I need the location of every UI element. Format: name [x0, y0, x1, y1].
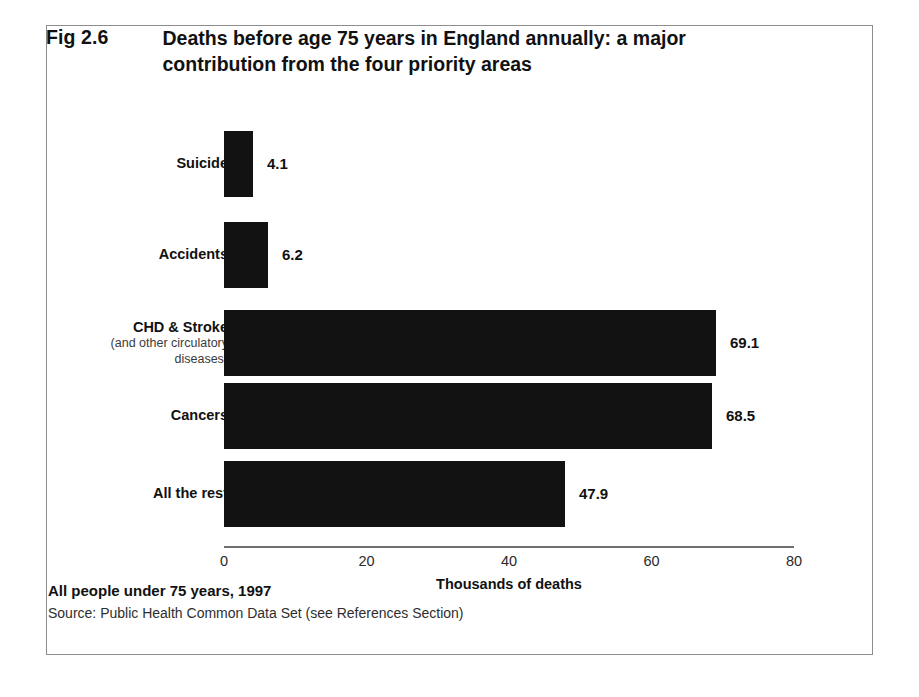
- bar-category-name: CHD & Stroke: [133, 319, 228, 335]
- bar-category-label: Cancers: [28, 407, 228, 424]
- footer-source: Source: Public Health Common Data Set (s…: [48, 605, 768, 621]
- bar-value-label: 47.9: [579, 485, 608, 502]
- bar-category-name: Suicide: [176, 155, 228, 171]
- x-axis-tick-label: 60: [643, 553, 659, 569]
- x-axis-tick-label: 0: [220, 553, 228, 569]
- figure-footer: All people under 75 years, 1997 Source: …: [48, 582, 768, 621]
- x-axis-tick-label: 40: [501, 553, 517, 569]
- bar-category-label: CHD & Stroke(and other circulatorydiseas…: [28, 319, 228, 367]
- bar: [224, 310, 716, 376]
- bar: [224, 222, 268, 288]
- bar-category-label: Accidents: [28, 246, 228, 263]
- bar-category-sublabel: (and other circulatory: [28, 336, 228, 351]
- x-axis-tick-label: 20: [358, 553, 374, 569]
- bar-category-label: All the rest: [28, 485, 228, 502]
- footer-caption: All people under 75 years, 1997: [48, 582, 768, 599]
- bar-category-name: Accidents: [159, 246, 228, 262]
- x-axis-tick-label: 80: [786, 553, 802, 569]
- bar-value-label: 4.1: [267, 155, 288, 172]
- bar-category-name: Cancers: [171, 407, 228, 423]
- bar: [224, 383, 712, 449]
- x-axis-line: [224, 546, 794, 548]
- bar-category-label: Suicide: [28, 155, 228, 172]
- bar-value-label: 6.2: [282, 246, 303, 263]
- bar-value-label: 69.1: [730, 334, 759, 351]
- bar-category-name: All the rest: [153, 485, 228, 501]
- bar: [224, 131, 253, 197]
- bar: [224, 461, 565, 527]
- bar-category-sublabel: diseases): [28, 352, 228, 367]
- bar-value-label: 68.5: [726, 407, 755, 424]
- bar-chart-plot-area: Suicide4.1Accidents6.2CHD & Stroke(and o…: [46, 25, 873, 655]
